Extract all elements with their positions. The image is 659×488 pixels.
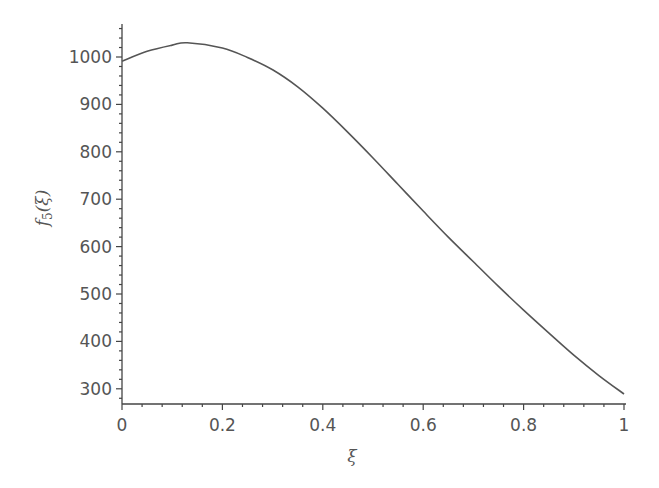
y-tick-label: 400	[80, 331, 112, 351]
y-axis-ticks: 3004005006007008009001000	[69, 29, 122, 399]
y-tick-label: 500	[80, 284, 112, 304]
y-tick-label: 1000	[69, 47, 112, 67]
x-tick-label: 0	[117, 415, 128, 435]
x-tick-label: 0.2	[209, 415, 236, 435]
y-axis-label: f5(ξ)	[32, 190, 55, 229]
y-label-sub: 5	[41, 212, 55, 220]
x-tick-label: 0.8	[510, 415, 537, 435]
y-tick-label: 300	[80, 379, 112, 399]
y-tick-label: 600	[80, 237, 112, 257]
x-tick-label: 1	[619, 415, 630, 435]
x-tick-label: 0.6	[410, 415, 437, 435]
y-tick-label: 900	[80, 94, 112, 114]
y-tick-label: 800	[80, 142, 112, 162]
data-line-f5	[122, 43, 624, 394]
y-tick-label: 700	[80, 189, 112, 209]
x-axis-ticks: 00.20.40.60.81	[117, 404, 630, 435]
line-chart: 3004005006007008009001000 00.20.40.60.81…	[0, 0, 659, 488]
svg-text:f5(ξ): f5(ξ)	[32, 190, 55, 229]
y-label-arg: (ξ)	[32, 190, 52, 213]
x-tick-label: 0.4	[309, 415, 336, 435]
x-axis-label: ξ	[347, 446, 358, 466]
